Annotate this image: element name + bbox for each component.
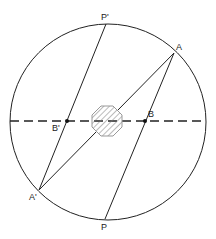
label-p-prime: P': [101, 12, 109, 22]
diagram-canvas: P' A B B' A' P: [0, 0, 216, 239]
segment-a-p: [105, 53, 174, 219]
label-b-prime: B': [52, 123, 60, 133]
label-a-prime: A': [29, 192, 37, 202]
octagon-obstacle: [92, 106, 122, 136]
label-p: P: [101, 222, 107, 232]
segment-a-a-prime-upper: [118, 53, 174, 110]
segment-p-prime-a-prime: [39, 24, 106, 190]
point-b-prime-dot: [65, 119, 69, 123]
label-a: A: [176, 42, 182, 52]
point-b-dot: [143, 119, 147, 123]
label-b: B: [148, 109, 154, 119]
segment-a-a-prime-lower: [39, 132, 96, 190]
